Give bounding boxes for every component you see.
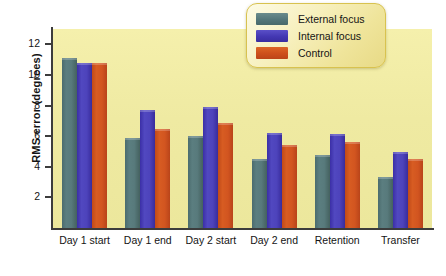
- bar-chart-figure: RMS error (degrees) 24681012 Day 1 start…: [0, 0, 446, 276]
- bar: [267, 133, 282, 228]
- bar-top-highlight: [140, 110, 155, 112]
- bar: [77, 63, 92, 228]
- bar-top-highlight: [203, 107, 218, 109]
- y-axis-tick-label: 6: [6, 129, 40, 141]
- bar: [315, 155, 330, 228]
- bar: [203, 107, 218, 228]
- bar-face: [408, 159, 423, 228]
- bar: [378, 177, 393, 228]
- y-axis-tick: [45, 105, 52, 107]
- chart-legend: External focusInternal focusControl: [246, 3, 386, 68]
- bar: [218, 123, 233, 228]
- bar: [408, 159, 423, 228]
- bar-top-highlight: [125, 138, 140, 140]
- bar-top-highlight: [77, 63, 92, 65]
- legend-label: Control: [298, 47, 332, 59]
- bar-face: [252, 159, 267, 228]
- bar-face: [203, 107, 218, 228]
- bar-top-highlight: [188, 136, 203, 138]
- bar: [155, 129, 170, 228]
- y-axis-tick-label: 4: [6, 160, 40, 172]
- bar: [330, 134, 345, 228]
- x-axis-category-label: Transfer: [363, 234, 438, 246]
- y-axis-tick: [45, 74, 52, 76]
- bar-top-highlight: [408, 159, 423, 161]
- bar-top-highlight: [92, 63, 107, 65]
- y-axis-tick: [45, 43, 52, 45]
- bar: [140, 110, 155, 228]
- y-axis-tick: [45, 166, 52, 168]
- bar: [345, 142, 360, 228]
- legend-color-swatch: [256, 47, 288, 59]
- bar-face: [267, 133, 282, 228]
- bar-face: [218, 123, 233, 228]
- x-axis-line: [51, 228, 434, 230]
- y-axis-tick: [45, 135, 52, 137]
- legend-item: Internal focus: [256, 27, 377, 44]
- y-axis-tick: [45, 196, 52, 198]
- bar-top-highlight: [155, 129, 170, 131]
- bar: [125, 138, 140, 228]
- bar-face: [188, 136, 203, 228]
- bar-face: [125, 138, 140, 228]
- bar: [62, 58, 77, 228]
- bar-face: [282, 145, 297, 228]
- bar-face: [393, 152, 408, 228]
- legend-label: Internal focus: [298, 30, 361, 42]
- bar-face: [330, 134, 345, 228]
- bar-top-highlight: [378, 177, 393, 179]
- bar-top-highlight: [393, 152, 408, 154]
- bar-face: [140, 110, 155, 228]
- y-axis-tick-label: 12: [6, 37, 40, 49]
- bar-top-highlight: [218, 123, 233, 125]
- bar-top-highlight: [315, 155, 330, 157]
- legend-label: External focus: [298, 13, 365, 25]
- bar-top-highlight: [345, 142, 360, 144]
- bar-top-highlight: [252, 159, 267, 161]
- bar-face: [155, 129, 170, 228]
- bar-face: [378, 177, 393, 228]
- bar-top-highlight: [330, 134, 345, 136]
- legend-color-swatch: [256, 30, 288, 42]
- bar-top-highlight: [282, 145, 297, 147]
- bar-top-highlight: [62, 58, 77, 60]
- bar-top-highlight: [267, 133, 282, 135]
- bar-face: [345, 142, 360, 228]
- bar: [282, 145, 297, 228]
- bar: [252, 159, 267, 228]
- bar: [188, 136, 203, 228]
- y-axis-tick-label: 2: [6, 190, 40, 202]
- legend-item: Control: [256, 44, 377, 61]
- legend-color-swatch: [256, 13, 288, 25]
- bar: [393, 152, 408, 228]
- bar-face: [62, 58, 77, 228]
- bar-face: [315, 155, 330, 228]
- legend-item: External focus: [256, 10, 377, 27]
- bar-face: [92, 63, 107, 228]
- bar: [92, 63, 107, 228]
- y-axis-tick-label: 10: [6, 68, 40, 80]
- bar-face: [77, 63, 92, 228]
- y-axis-tick-label: 8: [6, 99, 40, 111]
